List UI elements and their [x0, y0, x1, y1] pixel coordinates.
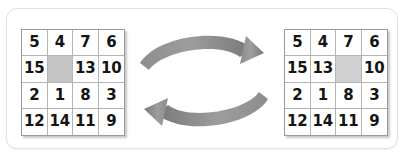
puzzle-cell[interactable]: 13 — [73, 56, 99, 82]
puzzle-cell[interactable]: 11 — [336, 109, 362, 135]
puzzle-move-figure: 5 4 7 6 15 13 10 2 1 8 3 12 14 11 9 — [0, 0, 406, 164]
puzzle-cell[interactable]: 2 — [22, 83, 48, 109]
puzzle-cell[interactable]: 15 — [22, 56, 48, 82]
puzzle-cell[interactable]: 12 — [285, 109, 311, 135]
puzzle-cell[interactable]: 6 — [362, 30, 388, 56]
puzzle-cell[interactable]: 9 — [99, 109, 125, 135]
puzzle-cell[interactable]: 10 — [99, 56, 125, 82]
puzzle-cell-blank[interactable] — [48, 56, 74, 82]
puzzle-cell[interactable]: 5 — [22, 30, 48, 56]
puzzle-grid-after: 5 4 7 6 15 13 10 2 1 8 3 12 14 11 9 — [284, 29, 388, 136]
puzzle-cell[interactable]: 2 — [285, 83, 311, 109]
puzzle-cell[interactable]: 13 — [311, 56, 337, 82]
puzzle-cell[interactable]: 8 — [336, 83, 362, 109]
puzzle-cell-blank[interactable] — [336, 56, 362, 82]
puzzle-cell[interactable]: 8 — [73, 83, 99, 109]
puzzle-grid-before: 5 4 7 6 15 13 10 2 1 8 3 12 14 11 9 — [21, 29, 125, 136]
cycle-arrows — [133, 24, 275, 140]
puzzle-cell[interactable]: 9 — [362, 109, 388, 135]
puzzle-cell[interactable]: 14 — [311, 109, 337, 135]
puzzle-cell[interactable]: 3 — [99, 83, 125, 109]
puzzle-cell[interactable]: 15 — [285, 56, 311, 82]
puzzle-cell[interactable]: 7 — [336, 30, 362, 56]
puzzle-cell[interactable]: 1 — [48, 83, 74, 109]
puzzle-cell[interactable]: 4 — [48, 30, 74, 56]
puzzle-cell[interactable]: 3 — [362, 83, 388, 109]
puzzle-cell[interactable]: 14 — [48, 109, 74, 135]
puzzle-cell[interactable]: 11 — [73, 109, 99, 135]
reverse-arrow-icon — [144, 92, 268, 126]
puzzle-cell[interactable]: 7 — [73, 30, 99, 56]
puzzle-cell[interactable]: 5 — [285, 30, 311, 56]
puzzle-cell[interactable]: 4 — [311, 30, 337, 56]
puzzle-cell[interactable]: 1 — [311, 83, 337, 109]
forward-arrow-icon — [140, 36, 264, 70]
puzzle-cell[interactable]: 12 — [22, 109, 48, 135]
puzzle-cell[interactable]: 6 — [99, 30, 125, 56]
puzzle-cell[interactable]: 10 — [362, 56, 388, 82]
